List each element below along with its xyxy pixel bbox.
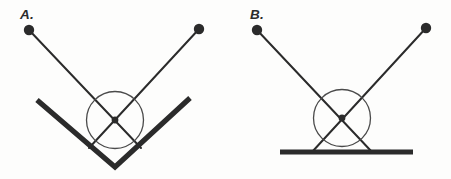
panel-b-label: B. (250, 7, 264, 22)
panel-a-right-rod (89, 29, 199, 148)
panel-a-label: A. (19, 7, 34, 22)
panel-b-crossing-point (339, 115, 346, 122)
figure-root: A. B. (0, 0, 451, 179)
panel-a-left-bob (24, 25, 34, 35)
panel-b-left-bob (252, 25, 262, 35)
panel-a-right-bob (194, 24, 204, 34)
figure-svg: A. B. (0, 0, 451, 179)
panel-b-right-bob (421, 23, 431, 33)
panel-a-v-track (37, 98, 190, 167)
panel-b-right-rod (312, 28, 426, 152)
panel-a-crossing-point (112, 117, 119, 124)
panel-b-left-rod (257, 30, 372, 152)
panel-a: A. (19, 7, 204, 167)
panel-b: B. (250, 7, 431, 152)
panel-a-left-rod (29, 30, 141, 148)
